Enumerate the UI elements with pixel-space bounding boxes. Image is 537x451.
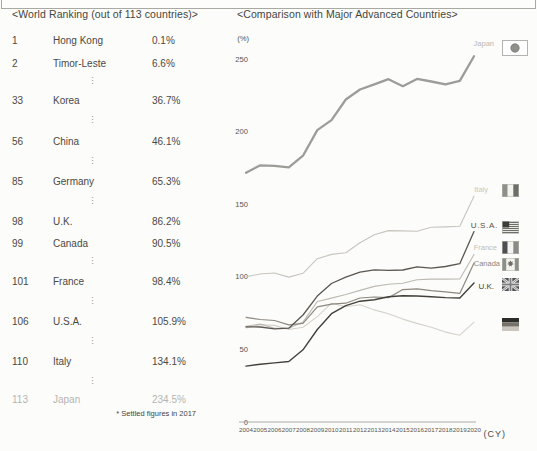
x-axis-unit-label: (CY): [484, 429, 507, 439]
legend-label-japan: Japan: [434, 39, 494, 48]
ranking-row: 110Italy134.1%: [0, 356, 225, 370]
ranking-row: 98U.K.86.2%: [0, 216, 225, 230]
ranking-rank: 98: [12, 216, 46, 227]
ranking-gap-ellipsis: ⋮: [86, 296, 98, 308]
ranking-gap-ellipsis: ⋮: [86, 376, 98, 388]
ranking-rank: 85: [12, 176, 46, 187]
legend-label-uk: U.K.: [434, 282, 494, 291]
series-line-uk: [246, 283, 474, 366]
ranking-gap-ellipsis: ⋮: [86, 196, 98, 208]
ranking-country: France: [53, 276, 148, 287]
x-axis-tick-label: 2006: [268, 426, 282, 433]
ranking-rank: 113: [12, 394, 46, 405]
ranking-country: Hong Kong: [53, 35, 148, 46]
ranking-row: 1Hong Kong0.1%: [0, 35, 225, 49]
comparison-line-chart: 050100150200250(%)2004200520062007200820…: [225, 30, 537, 451]
x-axis-tick-label: 2017: [424, 426, 438, 433]
ranking-country: U.S.A.: [53, 316, 148, 327]
legend-label-italy: Italy: [428, 185, 488, 194]
ranking-rank: 101: [12, 276, 46, 287]
ranking-rank: 99: [12, 238, 46, 249]
ranking-value: 86.2%: [152, 216, 212, 227]
ranking-row: 2Timor-Leste6.6%: [0, 58, 225, 72]
ranking-row: 99Canada90.5%: [0, 238, 225, 252]
uk-flag-icon: [502, 278, 519, 291]
canada-flag-icon: [502, 258, 519, 271]
france-flag-icon: [502, 241, 519, 254]
ranking-row: 101France98.4%: [0, 276, 225, 290]
x-axis-tick-label: 2007: [282, 426, 296, 433]
ranking-value: 90.5%: [152, 238, 212, 249]
world-ranking-table: 1Hong Kong0.1%2Timor-Leste6.6%⋮33Korea36…: [0, 0, 225, 451]
y-axis-tick-label: 200: [235, 127, 248, 136]
ranking-country: Germany: [53, 176, 148, 187]
ranking-rank: 33: [12, 95, 46, 106]
x-axis-tick-label: 2013: [367, 426, 381, 433]
ranking-country: U.K.: [53, 216, 148, 227]
x-axis-tick-label: 2015: [396, 426, 410, 433]
ranking-value: 234.5%: [152, 394, 212, 405]
ranking-country: Canada: [53, 238, 148, 249]
x-axis-tick-label: 2019: [453, 426, 467, 433]
ranking-rank: 2: [12, 58, 46, 69]
ranking-value: 98.4%: [152, 276, 212, 287]
ranking-country: Japan: [53, 394, 148, 405]
ranking-gap-ellipsis: ⋮: [86, 336, 98, 348]
x-axis-tick-label: 2020: [467, 426, 481, 433]
ranking-value: 134.1%: [152, 356, 212, 367]
x-axis-tick-label: 2016: [410, 426, 424, 433]
ranking-value: 65.3%: [152, 176, 212, 187]
ranking-row: 56China46.1%: [0, 136, 225, 150]
y-axis-tick-label: 250: [235, 55, 248, 64]
comparison-chart-title: <Comparison with Major Advanced Countrie…: [237, 8, 458, 20]
series-line-germany: [246, 303, 474, 335]
y-axis-unit-label: (%): [237, 34, 249, 43]
ranking-country: Korea: [53, 95, 148, 106]
ranking-country: China: [53, 136, 148, 147]
ranking-gap-ellipsis: ⋮: [86, 115, 98, 127]
ranking-value: 0.1%: [152, 35, 212, 46]
ranking-rank: 56: [12, 136, 46, 147]
ranking-value: 36.7%: [152, 95, 212, 106]
usa-flag-icon: [502, 221, 519, 234]
y-axis-tick-label: 150: [235, 200, 248, 209]
ranking-gap-ellipsis: ⋮: [86, 156, 98, 168]
ranking-row: 113Japan234.5%: [0, 394, 225, 408]
ranking-gap-ellipsis: ⋮: [86, 76, 98, 88]
ranking-rank: 110: [12, 356, 46, 367]
y-axis-tick-label: 50: [240, 345, 248, 354]
settled-figures-footnote: * Settled figures in 2017: [10, 409, 196, 418]
x-axis-tick-label: 2009: [310, 426, 324, 433]
ranking-row: 33Korea36.7%: [0, 95, 225, 109]
japan-flag-icon: [502, 40, 528, 56]
x-axis-tick-label: 2005: [253, 426, 267, 433]
germany-flag-icon: [502, 318, 519, 331]
ranking-gap-ellipsis: ⋮: [86, 256, 98, 268]
series-line-japan: [246, 56, 474, 173]
ranking-rank: 1: [12, 35, 46, 46]
x-axis-tick-label: 2011: [339, 426, 353, 433]
ranking-country: Timor-Leste: [53, 58, 148, 69]
ranking-value: 6.6%: [152, 58, 212, 69]
italy-flag-icon: [502, 184, 519, 197]
legend-label-canada: Canada: [430, 259, 500, 268]
legend-label-usa: U.S.A.: [432, 221, 498, 230]
ranking-value: 46.1%: [152, 136, 212, 147]
x-axis-tick-label: 2012: [353, 426, 367, 433]
x-axis-tick-label: 2014: [382, 426, 396, 433]
ranking-country: Italy: [53, 356, 148, 367]
ranking-value: 105.9%: [152, 316, 212, 327]
x-axis-tick-label: 2018: [439, 426, 453, 433]
x-axis-tick-label: 2010: [325, 426, 339, 433]
x-axis-tick-label: 2008: [296, 426, 310, 433]
ranking-row: 85Germany65.3%: [0, 176, 225, 190]
ranking-rank: 106: [12, 316, 46, 327]
ranking-row: 106U.S.A.105.9%: [0, 316, 225, 330]
x-axis-tick-label: 2004: [239, 426, 253, 433]
legend-label-france: France: [431, 243, 497, 252]
